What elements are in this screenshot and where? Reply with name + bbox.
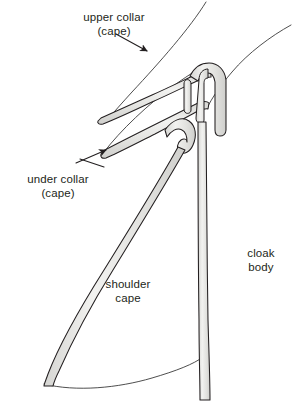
label-shoulder-cape-line1: shoulder	[92, 277, 164, 291]
label-upper-collar-line1: upper collar	[60, 10, 168, 24]
label-shoulder-cape: shoulder cape	[92, 277, 164, 305]
cloak-hem-curve	[44, 357, 203, 388]
label-under-collar-line2: (cape)	[6, 186, 110, 200]
label-cloak-body: cloak body	[234, 246, 288, 274]
label-cloak-body-line2: body	[234, 260, 288, 274]
label-upper-collar: upper collar (cape)	[60, 10, 168, 38]
label-under-collar: under collar (cape)	[6, 172, 110, 200]
cloak-collar-figure	[0, 0, 293, 406]
label-cloak-body-line1: cloak	[234, 246, 288, 260]
cloak-body-band	[198, 122, 210, 400]
label-upper-collar-line2: (cape)	[60, 24, 168, 38]
diagram-canvas: upper collar (cape) under collar (cape) …	[0, 0, 293, 406]
label-under-collar-line1: under collar	[6, 172, 110, 186]
collar-tab-band	[184, 80, 191, 114]
label-shoulder-cape-line2: cape	[92, 291, 164, 305]
